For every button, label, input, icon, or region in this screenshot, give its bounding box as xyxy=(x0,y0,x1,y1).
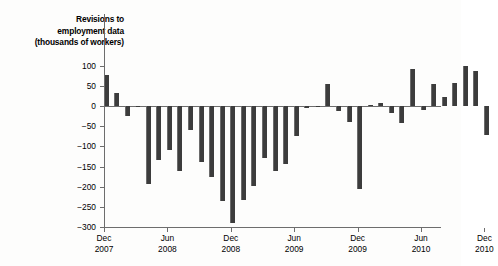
bar xyxy=(368,105,373,106)
x-tick-year: 2009 xyxy=(328,244,388,255)
x-tick-year: 2010 xyxy=(391,244,451,255)
x-tick-month: Dec xyxy=(74,233,134,244)
x-tick-year: 2008 xyxy=(201,244,261,255)
x-tick-mark xyxy=(421,228,422,232)
bar xyxy=(378,103,383,106)
bar xyxy=(304,106,309,108)
bar xyxy=(177,106,182,171)
y-tick-mark xyxy=(100,126,104,127)
y-tick-label: 100 xyxy=(56,61,96,71)
chart-title-line-1: Revisions to xyxy=(76,14,124,24)
bar xyxy=(104,75,109,106)
bar xyxy=(399,106,404,123)
y-tick-label: −250 xyxy=(56,202,96,212)
x-tick-label: Dec2009 xyxy=(328,233,388,255)
y-tick-label: −50 xyxy=(56,121,96,131)
x-tick-year: 2008 xyxy=(137,244,197,255)
x-tick-mark xyxy=(167,228,168,232)
bar xyxy=(167,106,172,150)
bar xyxy=(452,83,457,106)
x-tick-label: Jun2008 xyxy=(137,233,197,255)
bar xyxy=(114,93,119,106)
bar xyxy=(156,106,161,160)
bar xyxy=(336,106,341,111)
x-tick-month: Dec xyxy=(201,233,261,244)
y-tick-mark xyxy=(100,187,104,188)
y-tick-label: −150 xyxy=(56,162,96,172)
bar xyxy=(230,106,235,223)
y-tick-mark xyxy=(100,106,104,107)
bar xyxy=(325,84,330,106)
x-tick-month: Dec xyxy=(328,233,388,244)
bar xyxy=(251,106,256,186)
bar xyxy=(209,106,214,177)
bar xyxy=(473,71,478,106)
bar xyxy=(431,84,436,106)
bar xyxy=(484,106,489,135)
bar xyxy=(283,106,288,164)
y-axis-line xyxy=(104,14,105,227)
bar xyxy=(188,106,193,130)
bar xyxy=(347,106,352,122)
y-tick-label: 0 xyxy=(56,101,96,111)
bar xyxy=(262,106,267,158)
bar xyxy=(463,66,468,106)
x-tick-mark xyxy=(358,228,359,232)
y-tick-mark xyxy=(100,66,104,67)
x-tick-label: Jun2010 xyxy=(391,233,451,255)
x-tick-label: Jun2009 xyxy=(264,233,324,255)
bar xyxy=(294,106,299,136)
y-tick-label: −100 xyxy=(56,141,96,151)
x-tick-label: Dec2007 xyxy=(74,233,134,255)
bar xyxy=(442,97,447,106)
y-tick-mark xyxy=(100,146,104,147)
x-tick-mark xyxy=(294,228,295,232)
y-tick-mark xyxy=(100,207,104,208)
bar xyxy=(273,106,278,171)
x-axis-line xyxy=(104,227,441,228)
bar xyxy=(241,106,246,200)
bar xyxy=(125,106,130,116)
x-tick-mark xyxy=(231,228,232,232)
x-tick-month: Jun xyxy=(264,233,324,244)
x-tick-year: 2009 xyxy=(264,244,324,255)
bar xyxy=(135,106,140,107)
bar xyxy=(199,106,204,162)
x-tick-month: Jun xyxy=(137,233,197,244)
bar xyxy=(220,106,225,201)
bar xyxy=(146,106,151,184)
bar xyxy=(315,106,320,107)
x-tick-mark xyxy=(484,228,485,232)
bar xyxy=(421,106,426,110)
y-tick-mark xyxy=(100,167,104,168)
y-tick-label: 50 xyxy=(56,81,96,91)
x-tick-label: Dec2010 xyxy=(454,233,498,255)
x-tick-month: Dec xyxy=(454,233,498,244)
bar xyxy=(357,106,362,189)
x-tick-label: Dec2008 xyxy=(201,233,261,255)
x-tick-year: 2007 xyxy=(74,244,134,255)
y-tick-label: −300 xyxy=(56,222,96,232)
bar xyxy=(410,69,415,106)
chart-title-line-3: (thousands of workers) xyxy=(35,37,124,47)
chart-title: Revisions to employment data (thousands … xyxy=(6,14,124,49)
y-tick-label: −200 xyxy=(56,182,96,192)
x-tick-year: 2010 xyxy=(454,244,498,255)
x-tick-mark xyxy=(104,228,105,232)
bar xyxy=(389,106,394,113)
x-tick-month: Jun xyxy=(391,233,451,244)
chart-title-line-2: employment data xyxy=(57,26,124,36)
